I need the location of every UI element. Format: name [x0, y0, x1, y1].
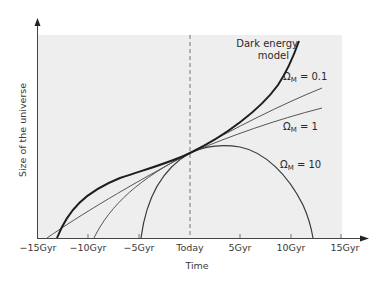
x-axis-title: Time — [184, 260, 208, 271]
tick-label: 5Gyr — [229, 242, 252, 253]
tick-label: 10Gyr — [277, 242, 306, 253]
x-tick-labels: −15Gyr −10Gyr −5Gyr Today 5Gyr 10Gyr 15G… — [20, 242, 360, 253]
tick-label: −15Gyr — [20, 242, 57, 253]
tick-label: −10Gyr — [70, 242, 107, 253]
x-axis-arrow-icon — [360, 236, 369, 242]
label-dark-energy-line1: Dark energy — [236, 38, 298, 49]
tick-label: Today — [175, 242, 204, 253]
y-axis-arrow-icon — [35, 18, 41, 26]
label-dark-energy-line2: model — [258, 50, 289, 61]
tick-label: −5Gyr — [124, 242, 155, 253]
y-axis-title: Size of the universe — [17, 83, 28, 177]
cosmic-expansion-chart: −15Gyr −10Gyr −5Gyr Today 5Gyr 10Gyr 15G… — [0, 0, 390, 282]
tick-label: 15Gyr — [331, 242, 360, 253]
